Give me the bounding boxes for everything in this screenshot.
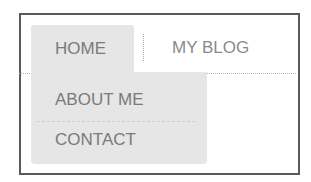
menu-item-about-me[interactable]: ABOUT ME [55,90,143,110]
tab-separator [143,34,144,61]
home-dropdown-menu: ABOUT ME CONTACT [31,72,207,164]
menu-divider [37,121,195,122]
menu-item-contact[interactable]: CONTACT [55,130,136,150]
tab-home[interactable]: HOME [31,25,134,73]
tab-my-blog[interactable]: MY BLOG [172,38,249,58]
tab-home-label: HOME [55,39,106,59]
